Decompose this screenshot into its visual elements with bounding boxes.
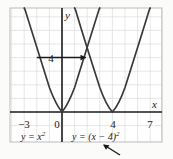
eq2-base: y = (x − 4) — [71, 131, 117, 143]
parabola-translation-figure: 4 −3 0 4 7 y x y = x2 y = (x − 4)2 — [0, 0, 173, 159]
x-tick-label-4: 4 — [110, 118, 116, 130]
x-tick-label--3: −3 — [18, 118, 30, 130]
svg-text:y = (x − 4)2: y = (x − 4)2 — [71, 130, 120, 143]
eq1-exponent: 2 — [42, 130, 46, 138]
equation-label-y-equals-x-minus-4-squared: y = (x − 4)2 — [71, 130, 120, 143]
x-tick-label-7: 7 — [147, 118, 153, 130]
x-tick-label-0: 0 — [54, 118, 60, 130]
eq2-exponent: 2 — [116, 130, 120, 138]
eq1-base: y = x — [20, 131, 42, 142]
plot-background — [10, 8, 162, 142]
y-tick-label-4: 4 — [48, 52, 54, 64]
equation-pointer-arrow — [103, 144, 120, 155]
y-axis-letter: y — [64, 9, 70, 21]
x-axis-letter: x — [151, 98, 157, 110]
